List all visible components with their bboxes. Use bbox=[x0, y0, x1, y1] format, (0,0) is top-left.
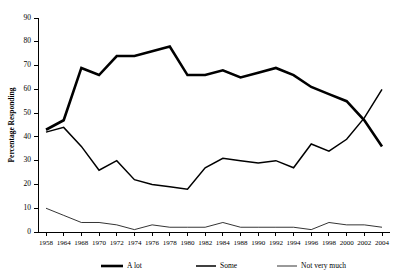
y-tick-label: 90 bbox=[24, 13, 32, 22]
series-lines bbox=[46, 47, 382, 230]
y-tick-label: 60 bbox=[24, 84, 32, 93]
y-tick-label: 50 bbox=[24, 108, 32, 117]
chart-container: Percentage Responding 010203040506070809… bbox=[0, 0, 403, 278]
x-axis-ticks: 1958196419681970197219741976197819801982… bbox=[39, 232, 390, 247]
y-tick-label: 0 bbox=[27, 227, 31, 236]
x-tick-label: 2004 bbox=[375, 239, 390, 247]
x-tick-label: 1988 bbox=[234, 239, 249, 247]
x-tick-label: 1958 bbox=[39, 239, 54, 247]
series-line-some bbox=[46, 89, 382, 189]
x-tick-label: 1976 bbox=[145, 239, 160, 247]
x-tick-label: 1964 bbox=[57, 239, 72, 247]
x-tick-label: 2002 bbox=[357, 239, 372, 247]
y-tick-label: 10 bbox=[24, 203, 32, 212]
y-axis-title-group: Percentage Responding bbox=[7, 87, 16, 162]
x-tick-label: 1974 bbox=[127, 239, 142, 247]
legend-label-2: Some bbox=[220, 261, 238, 270]
x-tick-label: 1970 bbox=[92, 239, 107, 247]
y-tick-label: 20 bbox=[24, 179, 32, 188]
legend-label-1: A lot bbox=[127, 261, 143, 270]
legend-label-3: Not very much bbox=[301, 261, 346, 270]
x-tick-label: 1996 bbox=[304, 239, 319, 247]
y-axis-ticks: 0102030405060708090 bbox=[24, 13, 39, 236]
x-tick-label: 2000 bbox=[340, 239, 355, 247]
x-tick-label: 1998 bbox=[322, 239, 337, 247]
x-tick-label: 1994 bbox=[287, 239, 302, 247]
x-tick-label: 1972 bbox=[110, 239, 125, 247]
y-tick-label: 80 bbox=[24, 36, 32, 45]
chart-legend: A lotSomeNot very much bbox=[101, 261, 346, 270]
line-chart: Percentage Responding 010203040506070809… bbox=[0, 0, 403, 278]
y-tick-label: 70 bbox=[24, 60, 32, 69]
series-line-not-very-much bbox=[46, 208, 382, 229]
x-tick-label: 1978 bbox=[163, 239, 178, 247]
x-tick-label: 1990 bbox=[251, 239, 266, 247]
x-tick-label: 1984 bbox=[216, 239, 231, 247]
y-axis-title: Percentage Responding bbox=[7, 87, 16, 162]
y-tick-label: 40 bbox=[24, 132, 32, 141]
x-tick-label: 1982 bbox=[198, 239, 213, 247]
x-tick-label: 1992 bbox=[269, 239, 284, 247]
x-tick-label: 1980 bbox=[180, 239, 195, 247]
x-tick-label: 1968 bbox=[74, 239, 89, 247]
y-tick-label: 30 bbox=[24, 155, 32, 164]
series-line-a-lot bbox=[46, 47, 382, 147]
